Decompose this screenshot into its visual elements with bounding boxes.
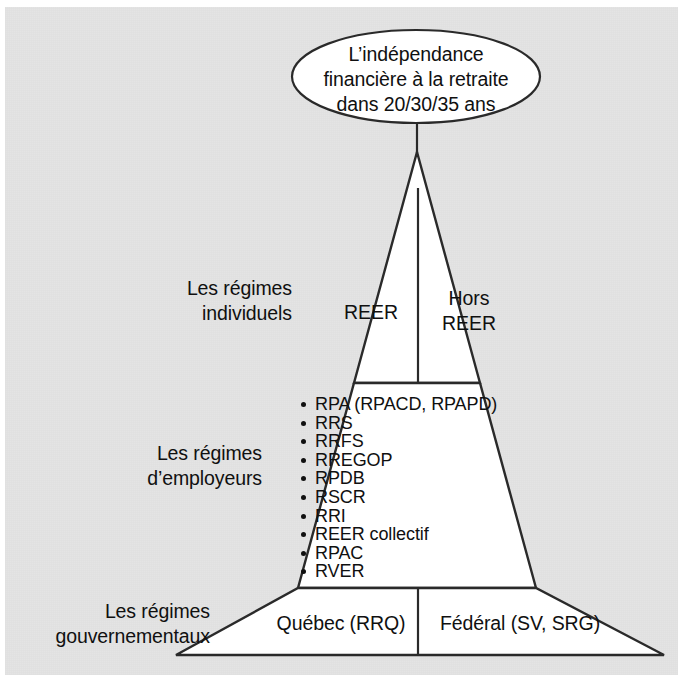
list-item: RPA (RPACD, RPAPD)	[300, 395, 497, 414]
cell-reer: REER	[330, 300, 412, 325]
employer-plans-list: RPA (RPACD, RPAPD) RRS RRFS RREGOP RPDB …	[300, 395, 497, 581]
cell-hors-reer: Hors REER	[424, 286, 514, 337]
list-item: RREGOP	[300, 451, 497, 470]
tier-label-government: Les régimes gouvernementaux	[0, 599, 210, 650]
tier-label-employer: Les régimes d’employeurs	[30, 441, 262, 492]
list-item: RVER	[300, 562, 497, 581]
goal-text: L’indépendance financière à la retraite …	[292, 42, 540, 117]
list-item: RPAC	[300, 544, 497, 563]
retirement-plans-pyramid-figure: L’indépendance financière à la retraite …	[0, 0, 682, 679]
cell-quebec: Québec (RRQ)	[268, 611, 414, 636]
list-item: RPDB	[300, 469, 497, 488]
list-item: RRFS	[300, 432, 497, 451]
list-item: RRI	[300, 507, 497, 526]
tier-label-individual: Les régimes individuels	[60, 276, 292, 327]
cell-federal: Fédéral (SV, SRG)	[432, 611, 608, 636]
list-item: RRS	[300, 414, 497, 433]
list-item: RSCR	[300, 488, 497, 507]
list-item: REER collectif	[300, 525, 497, 544]
